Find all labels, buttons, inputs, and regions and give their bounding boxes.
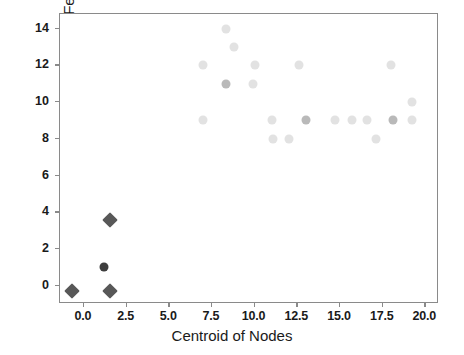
x-tick-mark (254, 303, 255, 307)
y-tick-mark (55, 138, 59, 139)
data-point-background-points (407, 116, 416, 125)
x-tick-mark (126, 303, 127, 307)
x-tick-mark (211, 303, 212, 307)
data-point-background-points (347, 116, 356, 125)
y-tick-mark (55, 248, 59, 249)
y-tick-label: 8 (42, 131, 49, 145)
x-axis-title: Centroid of Nodes (0, 327, 464, 344)
x-tick-mark (382, 303, 383, 307)
data-point-background-points (269, 134, 278, 143)
y-tick-mark (55, 64, 59, 65)
data-point-background-points (371, 134, 380, 143)
data-point-background-points (407, 98, 416, 107)
y-tick-label: 6 (42, 168, 49, 182)
x-tick-mark (83, 303, 84, 307)
data-point-background-points (267, 116, 276, 125)
data-point-background-points (387, 61, 396, 70)
data-point-background-points (199, 61, 208, 70)
y-tick-mark (55, 175, 59, 176)
x-tick-mark (296, 303, 297, 307)
y-tick-label: 14 (35, 21, 49, 35)
scatter-chart-figure: Centroid of Features 0.02.55.07.510.012.… (0, 0, 464, 355)
x-tick-label: 2.5 (117, 309, 134, 323)
y-tick-label: 4 (42, 204, 49, 218)
x-tick-mark (339, 303, 340, 307)
data-point-background-points (363, 116, 372, 125)
y-tick-label: 10 (35, 94, 49, 108)
data-point-centroid-diamonds (64, 283, 80, 299)
y-tick-mark (55, 28, 59, 29)
data-point-background-points (284, 134, 293, 143)
data-point-mid-points (301, 116, 310, 125)
y-tick-mark (55, 101, 59, 102)
x-tick-label: 17.5 (370, 309, 394, 323)
x-tick-label: 5.0 (160, 309, 177, 323)
x-tick-label: 10.0 (242, 309, 266, 323)
y-tick-mark (55, 211, 59, 212)
y-axis-title-wrapper: Centroid of Features (14, 13, 36, 303)
data-point-mid-points (388, 116, 397, 125)
data-point-background-points (295, 61, 304, 70)
x-tick-label: 15.0 (327, 309, 351, 323)
plot-area (59, 13, 438, 303)
data-point-background-points (250, 61, 259, 70)
x-tick-label: 20.0 (413, 309, 437, 323)
data-point-background-points (221, 24, 230, 33)
data-point-background-points (199, 116, 208, 125)
data-point-centroid-diamonds (102, 212, 118, 228)
x-tick-label: 12.5 (285, 309, 309, 323)
data-point-mid-points (221, 79, 230, 88)
data-point-background-points (230, 43, 239, 52)
y-tick-label: 0 (42, 278, 49, 292)
x-tick-mark (168, 303, 169, 307)
data-point-background-points (330, 116, 339, 125)
x-tick-mark (424, 303, 425, 307)
data-points-layer (60, 14, 437, 302)
data-point-centroid-circle (100, 263, 109, 272)
x-tick-label: 0.0 (75, 309, 92, 323)
y-tick-label: 12 (35, 57, 49, 71)
data-point-centroid-diamonds (102, 283, 118, 299)
y-tick-mark (55, 285, 59, 286)
data-point-background-points (248, 79, 257, 88)
x-tick-label: 7.5 (203, 309, 220, 323)
y-tick-label: 2 (42, 241, 49, 255)
